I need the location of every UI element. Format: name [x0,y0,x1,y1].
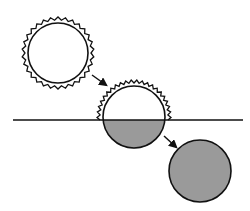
stage-1-coated-circle [22,17,94,89]
stage-3-shaded-circle [169,140,231,202]
diagram-svg [0,0,250,211]
arrow-icon [164,136,176,147]
diagram-canvas [0,0,250,211]
inner-circle [28,23,88,83]
arrow-icon [92,75,106,85]
shaded-lower-half [103,120,165,149]
stage-2-merging-circle [97,80,171,148]
